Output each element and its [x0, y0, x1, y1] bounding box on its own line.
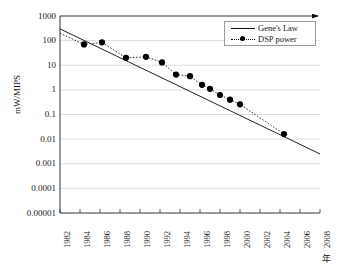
y-tick-label: 0.1	[12, 110, 56, 119]
figure-chart: mW/MIPS 10001001010.10.010.0010.00010.00…	[0, 0, 338, 268]
y-tick-label: 10	[12, 61, 56, 70]
x-axis-unit-label: 年	[322, 252, 331, 265]
x-tick-label: 1998	[216, 216, 225, 250]
x-tick-label: 2006	[296, 216, 305, 250]
y-tick-label: 1	[12, 85, 56, 94]
x-tick-label: 1990	[136, 216, 145, 250]
y-tick-label: 0.001	[12, 159, 56, 168]
x-tick-label: 1994	[176, 216, 185, 250]
x-tick-label: 1996	[196, 216, 205, 250]
x-tick-marks	[60, 209, 320, 213]
x-tick-label: 1988	[116, 216, 125, 250]
y-tick-label: 1000	[12, 12, 56, 21]
legend-circle-marker-icon	[240, 36, 245, 41]
series-genes-law	[60, 29, 320, 154]
x-tick-label: 2008	[316, 216, 325, 250]
legend-label: Gene's Law	[258, 23, 298, 34]
x-tick-label: 1992	[156, 216, 165, 250]
y-tick-label: 100	[12, 36, 56, 45]
x-tick-label: 1984	[76, 216, 85, 250]
x-tick-label: 2004	[276, 216, 285, 250]
series-dsp-power	[60, 33, 284, 134]
gridlines	[60, 41, 320, 189]
x-tick-label: 1986	[96, 216, 105, 250]
legend-label: DSP power	[258, 34, 297, 45]
x-tick-label: 2000	[236, 216, 245, 250]
y-tick-label: 0.00001	[12, 209, 56, 218]
y-tick-label: 0.0001	[12, 184, 56, 193]
legend-solid-line-icon	[231, 28, 255, 29]
x-tick-label: 1982	[56, 216, 65, 250]
y-tick-label: 0.01	[12, 135, 56, 144]
x-tick-label: 2002	[256, 216, 265, 250]
legend: Gene's Law DSP power	[224, 21, 316, 46]
